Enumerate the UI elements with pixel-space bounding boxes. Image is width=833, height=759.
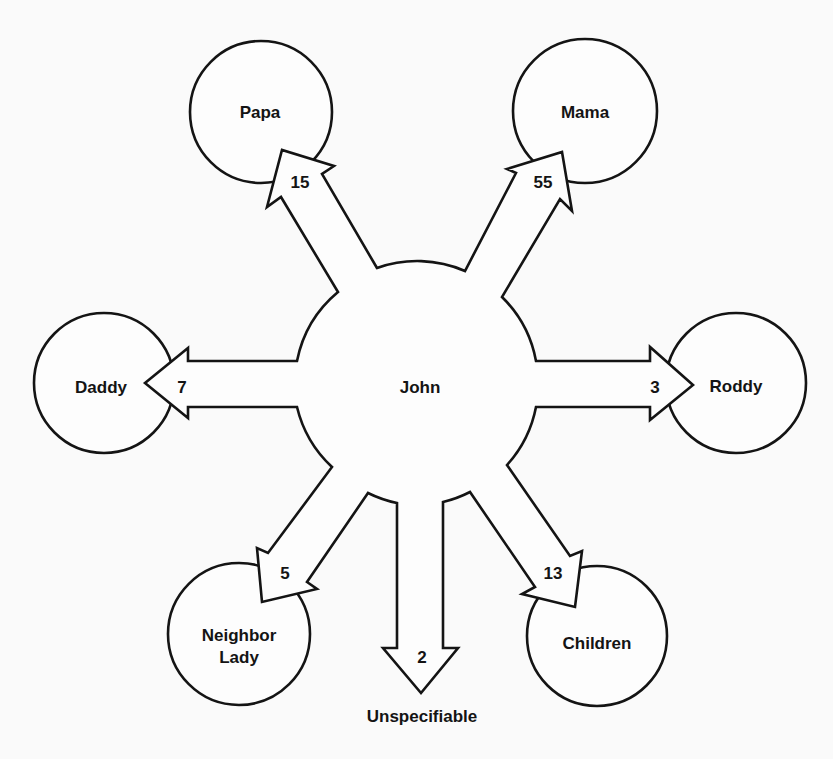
diagram-canvas: John Papa 15 Mama 55 Daddy 7 Roddy 3 Nei… bbox=[0, 0, 833, 759]
relationship-diagram: John Papa 15 Mama 55 Daddy 7 Roddy 3 Nei… bbox=[0, 0, 833, 759]
node-neighbor-lady-label-line1: Neighbor bbox=[202, 626, 277, 645]
arrow-roddy-value: 3 bbox=[650, 378, 659, 397]
arrow-papa-value: 15 bbox=[291, 173, 310, 192]
node-daddy-label: Daddy bbox=[75, 378, 128, 397]
node-papa-label: Papa bbox=[240, 103, 281, 122]
arrow-mama-value: 55 bbox=[534, 173, 553, 192]
node-mama-label: Mama bbox=[561, 103, 610, 122]
center-node-label: John bbox=[400, 378, 441, 397]
node-children-label: Children bbox=[563, 634, 632, 653]
node-roddy-label: Roddy bbox=[710, 377, 763, 396]
arrow-children-value: 13 bbox=[544, 564, 563, 583]
node-unspecifiable-label: Unspecifiable bbox=[367, 707, 478, 726]
arrow-unspecifiable-value: 2 bbox=[417, 648, 426, 667]
node-neighbor-lady-label-line2: Lady bbox=[219, 648, 259, 667]
arrow-daddy-value: 7 bbox=[177, 378, 186, 397]
arrow-neighbor-lady-value: 5 bbox=[280, 564, 289, 583]
